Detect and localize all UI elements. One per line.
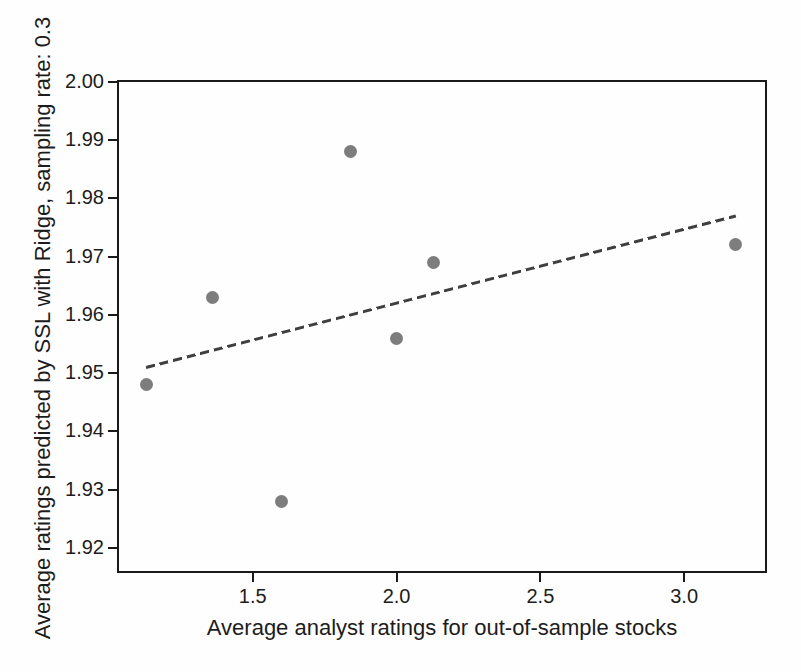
x-tick-label: 2.0: [362, 585, 432, 608]
y-tick-label: 1.93: [34, 478, 104, 501]
y-tick-label: 1.94: [34, 419, 104, 442]
x-tick-label: 2.5: [505, 585, 575, 608]
y-tick-label: 1.97: [34, 245, 104, 268]
x-tick-mark: [683, 573, 685, 582]
x-tick-mark: [396, 573, 398, 582]
x-tick-label: 3.0: [649, 585, 719, 608]
data-point: [206, 291, 219, 304]
y-tick-mark: [108, 547, 117, 549]
y-tick-mark: [108, 139, 117, 141]
y-tick-mark: [108, 430, 117, 432]
x-tick-label: 1.5: [218, 585, 288, 608]
y-tick-mark: [108, 489, 117, 491]
x-tick-mark: [539, 573, 541, 582]
y-tick-label: 1.92: [34, 536, 104, 559]
y-tick-label: 1.99: [34, 128, 104, 151]
y-tick-label: 2.00: [34, 70, 104, 93]
data-point: [390, 332, 403, 345]
plot-area: [117, 80, 767, 573]
y-tick-mark: [108, 81, 117, 83]
y-tick-label: 1.95: [34, 361, 104, 384]
y-tick-mark: [108, 314, 117, 316]
data-point: [275, 495, 288, 508]
x-tick-mark: [252, 573, 254, 582]
y-axis-label: Average ratings predicted by SSL with Ri…: [30, 0, 56, 658]
y-tick-label: 1.98: [34, 186, 104, 209]
scatter-plot-figure: Average ratings predicted by SSL with Ri…: [0, 0, 801, 672]
y-tick-mark: [108, 372, 117, 374]
y-tick-mark: [108, 197, 117, 199]
y-tick-label: 1.96: [34, 303, 104, 326]
y-tick-mark: [108, 256, 117, 258]
x-axis-label: Average analyst ratings for out-of-sampl…: [117, 615, 767, 641]
